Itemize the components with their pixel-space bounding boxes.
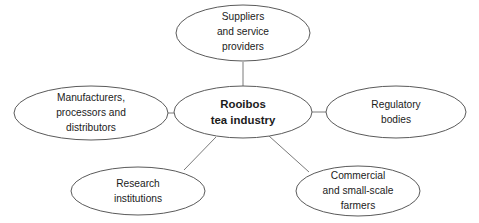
manufacturers-label-line-3: distributors	[66, 122, 116, 133]
suppliers-label-line-1: Suppliers	[222, 11, 264, 22]
farmers-label-line-3: farmers	[341, 200, 376, 211]
regulatory-label-line-1: Regulatory	[371, 99, 421, 110]
center-label-line-1: Rooibos	[220, 98, 266, 110]
node-commercial-and-small-scale-farmers[interactable]: Commercial and small-scale farmers	[296, 166, 420, 216]
farmers-label-line-2: and small-scale	[323, 185, 394, 196]
node-manufacturers-processors-and-distributors[interactable]: Manufacturers, processors and distributo…	[14, 86, 168, 140]
node-rooibos-tea-industry[interactable]: Rooibos tea industry	[174, 86, 312, 138]
stakeholder-diagram: Suppliers and service providers Manufact…	[0, 0, 479, 223]
node-research-institutions[interactable]: Research institutions	[71, 167, 205, 215]
suppliers-label-line-2: and service	[217, 26, 269, 37]
manufacturers-label-line-2: processors and	[56, 107, 126, 118]
center-ellipse	[174, 86, 312, 138]
node-suppliers-and-service-providers[interactable]: Suppliers and service providers	[176, 5, 310, 61]
research-label-line-2: institutions	[114, 193, 162, 204]
regulatory-ellipse	[326, 86, 466, 138]
research-label-line-1: Research	[116, 178, 160, 189]
research-ellipse	[71, 167, 205, 215]
farmers-label-line-1: Commercial	[331, 170, 385, 181]
connector-center-to-research	[184, 137, 216, 170]
diagram-canvas: Suppliers and service providers Manufact…	[0, 0, 479, 223]
regulatory-label-line-2: bodies	[381, 114, 411, 125]
suppliers-label-line-3: providers	[222, 41, 264, 52]
center-label-line-2: tea industry	[211, 114, 276, 126]
node-regulatory-bodies[interactable]: Regulatory bodies	[326, 86, 466, 138]
manufacturers-label-line-1: Manufacturers,	[57, 92, 125, 103]
connector-center-to-farmers	[269, 136, 309, 172]
